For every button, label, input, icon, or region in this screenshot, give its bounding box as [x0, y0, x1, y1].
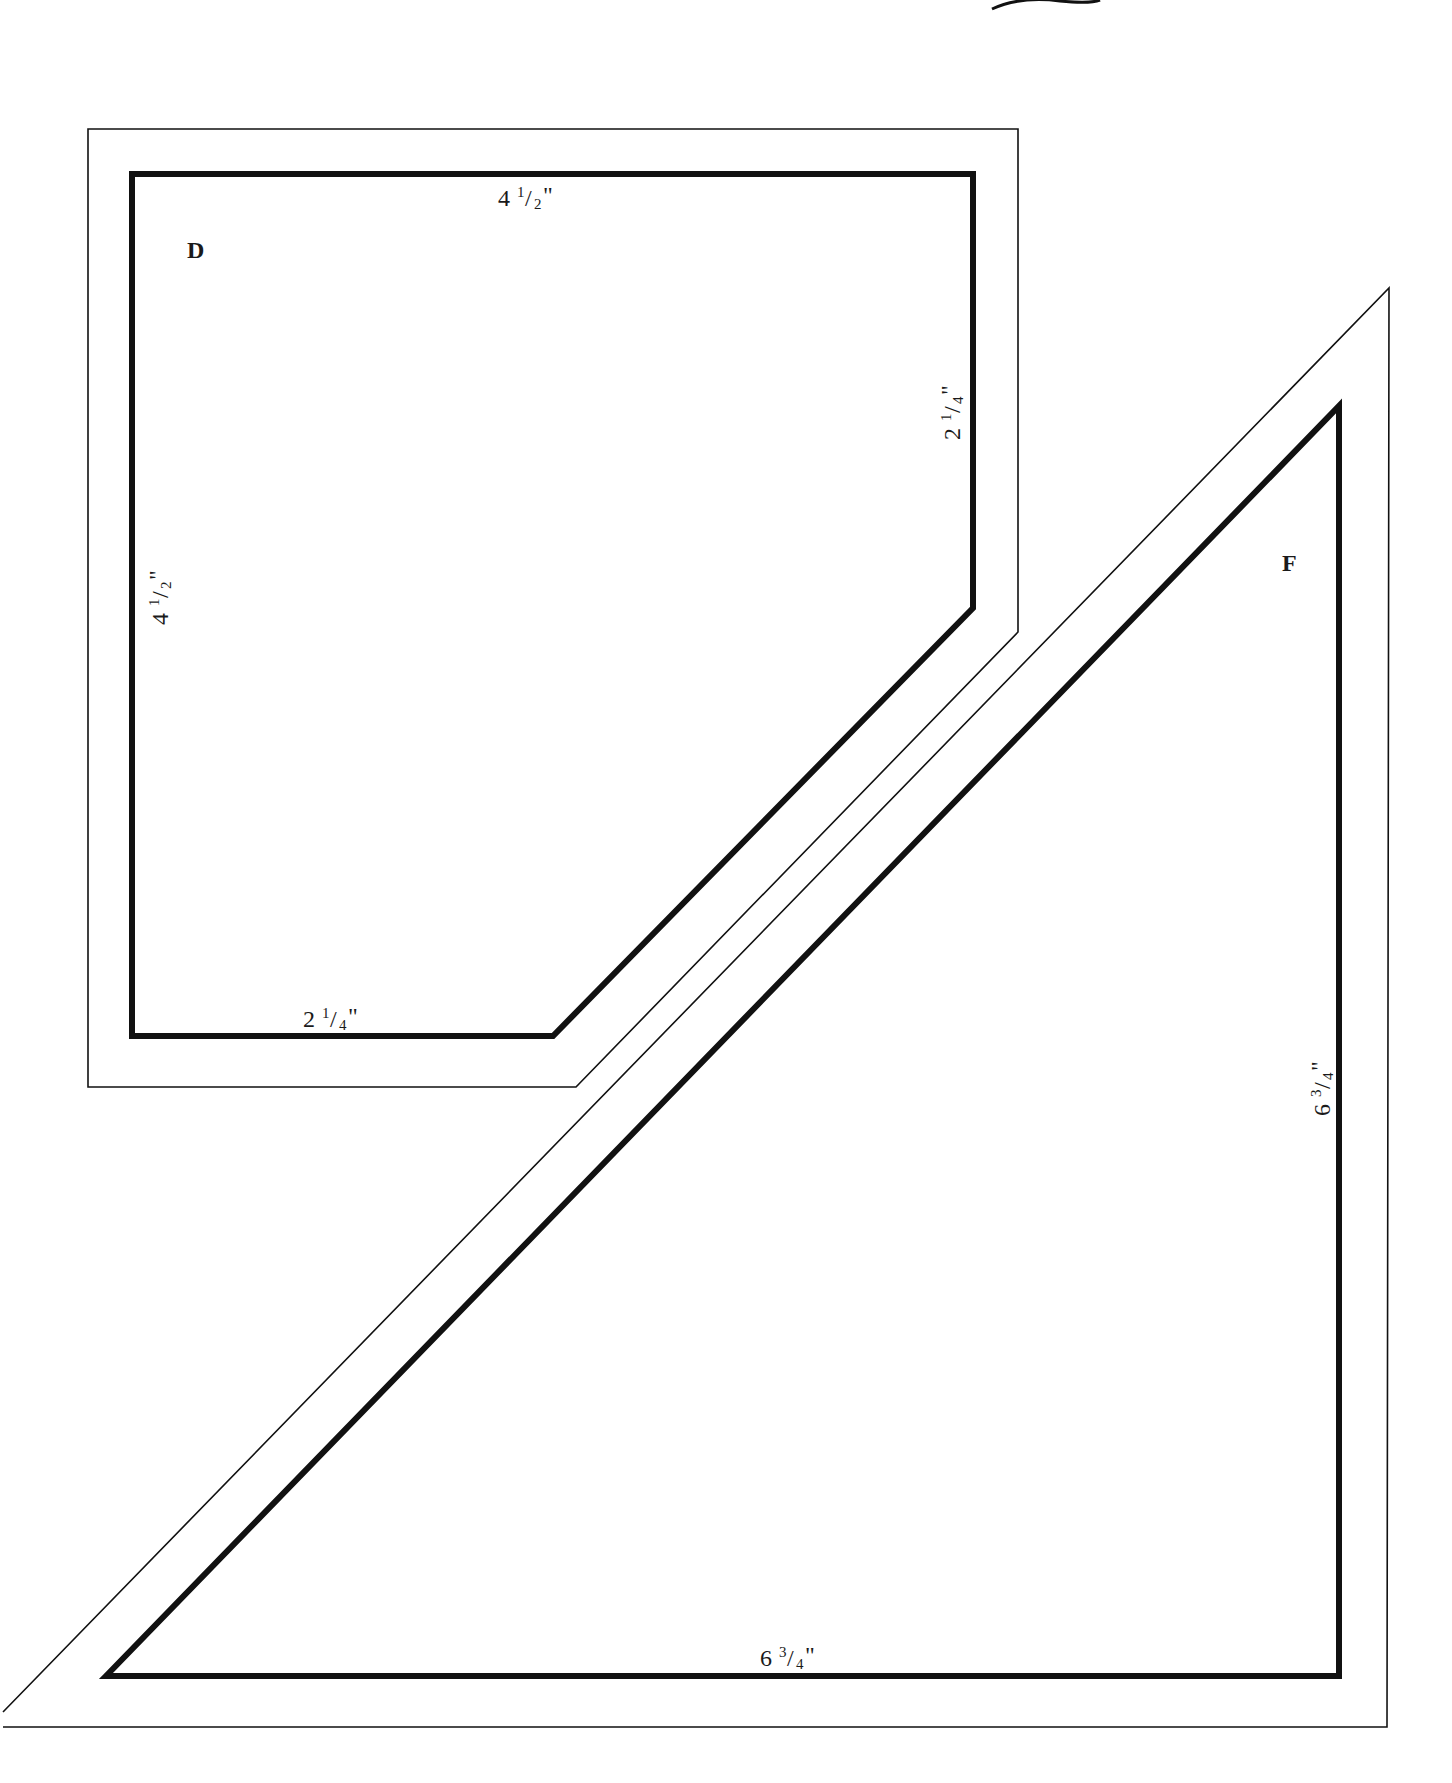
svg-text:2: 2 [939, 428, 965, 440]
svg-text:4: 4 [950, 396, 966, 404]
svg-text:1: 1 [146, 599, 162, 607]
template-canvas: D F 4 1 / 2 " 4 1 / 2 " 2 1 / 4 " 2 1 / … [0, 0, 1452, 1783]
piece-f-label: F [1282, 550, 1297, 576]
svg-text:1: 1 [517, 184, 525, 200]
svg-text:2: 2 [158, 582, 174, 590]
svg-text:3: 3 [779, 1644, 787, 1660]
piece-f-bottom-dimension: 6 3 / 4 " [760, 1642, 815, 1672]
svg-text:6: 6 [760, 1645, 772, 1671]
svg-text:1: 1 [938, 414, 954, 422]
piece-d-top-dimension: 4 1 / 2 " [498, 182, 553, 212]
svg-text:4: 4 [796, 1656, 804, 1672]
svg-text:4: 4 [1320, 1072, 1336, 1080]
svg-text:4: 4 [498, 185, 510, 211]
svg-text:4: 4 [339, 1017, 347, 1033]
svg-text:/: / [1309, 1082, 1335, 1089]
svg-text:": " [144, 570, 170, 580]
svg-text:": " [1306, 1061, 1332, 1071]
svg-text:/: / [939, 406, 965, 413]
svg-text:": " [348, 1003, 358, 1029]
svg-text:/: / [787, 1645, 794, 1671]
svg-text:": " [936, 385, 962, 395]
svg-text:/: / [525, 185, 532, 211]
piece-d-seam-line [132, 174, 973, 1036]
svg-text:/: / [147, 591, 173, 598]
svg-text:2: 2 [534, 196, 542, 212]
piece-d-cut-line [88, 129, 1018, 1087]
svg-text:1: 1 [322, 1005, 330, 1021]
svg-text:/: / [330, 1006, 337, 1032]
piece-d-bottom-dimension: 2 1 / 4 " [303, 1003, 358, 1033]
decorative-swirl [992, 0, 1100, 9]
svg-text:": " [805, 1642, 815, 1668]
piece-d-label: D [187, 237, 204, 263]
piece-d-right-dimension: 2 1 / 4 " [936, 385, 966, 440]
svg-text:3: 3 [1308, 1090, 1324, 1098]
piece-f-right-dimension: 6 3 / 4 " [1306, 1061, 1336, 1116]
piece-f-cut-line [3, 288, 1389, 1727]
piece-f-seam-line [106, 406, 1339, 1676]
svg-text:6: 6 [1309, 1104, 1335, 1116]
svg-text:4: 4 [147, 613, 173, 625]
svg-text:": " [543, 182, 553, 208]
svg-text:2: 2 [303, 1006, 315, 1032]
piece-d-left-dimension: 4 1 / 2 " [144, 570, 174, 625]
